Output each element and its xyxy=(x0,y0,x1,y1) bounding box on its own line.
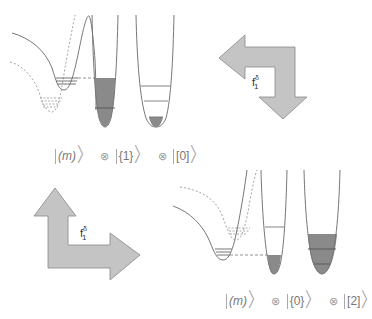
bottom-solid-potential xyxy=(173,170,247,260)
bottom-panel xyxy=(173,170,340,274)
ket-mode-2: [0] xyxy=(176,149,189,163)
bottom-state-ket: (m)〉 ⊗ {0}〉 ⊗ [2]〉 xyxy=(226,288,372,309)
ket-angle: 〉 xyxy=(361,285,372,312)
label-sub: 1 xyxy=(82,233,86,242)
tensor-symbol: ⊗ xyxy=(271,295,280,307)
tensor-symbol: ⊗ xyxy=(100,150,109,162)
label-sup: δ xyxy=(255,74,259,81)
ket-mode-1: {0} xyxy=(290,294,305,308)
ket-bar xyxy=(116,149,117,164)
tensor-symbol: ⊗ xyxy=(329,295,338,307)
ket-bar xyxy=(287,294,288,309)
arrow-left-down xyxy=(219,35,307,119)
top-dashed-potential xyxy=(10,15,75,112)
top-state-ket: (m)〉 ⊗ {1}〉 ⊗ [0]〉 xyxy=(55,143,207,164)
top-solid-potential xyxy=(12,16,96,110)
tensor-symbol: ⊗ xyxy=(158,150,167,162)
bottom-dashed-levels xyxy=(228,228,250,234)
ket-bar xyxy=(55,149,56,164)
ket-angle: 〉 xyxy=(134,140,149,167)
top-well-1-fill xyxy=(95,78,115,127)
label-sup: δ xyxy=(83,225,87,232)
ket-bar xyxy=(173,149,174,164)
arrow-up-right xyxy=(34,188,140,280)
bottom-well-1-fill xyxy=(268,255,281,274)
ket-mode-m: (m) xyxy=(58,149,76,163)
ket-angle: 〉 xyxy=(190,140,205,167)
ket-angle: 〉 xyxy=(77,140,92,167)
top-well-2 xyxy=(136,15,174,127)
ket-bar xyxy=(226,294,227,309)
ket-bar xyxy=(344,294,345,309)
ket-angle: 〉 xyxy=(305,285,320,312)
arrow-top-right-label: fδ1 xyxy=(252,75,258,91)
arrow-bottom-left-label: fδ1 xyxy=(80,226,86,242)
ket-mode-m: (m) xyxy=(229,294,247,308)
top-solid-levels xyxy=(56,78,78,84)
top-panel xyxy=(10,15,174,127)
ket-mode-2: [2] xyxy=(347,294,360,308)
ket-mode-1: {1} xyxy=(119,149,134,163)
label-sub: 1 xyxy=(254,82,258,91)
ket-angle: 〉 xyxy=(248,285,263,312)
